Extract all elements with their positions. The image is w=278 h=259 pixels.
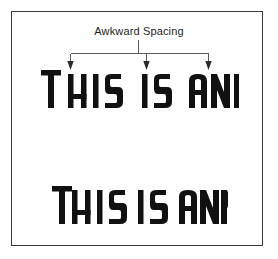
specimen-line-even: [0, 184, 278, 226]
typography-figure: Awkward Spacing: [0, 0, 278, 259]
specimen-line-loose-glyphs: [39, 68, 239, 110]
annotation-label: Awkward Spacing: [0, 25, 278, 38]
specimen-line-loose: [0, 68, 278, 110]
specimen-line-even-glyphs: [50, 184, 228, 226]
